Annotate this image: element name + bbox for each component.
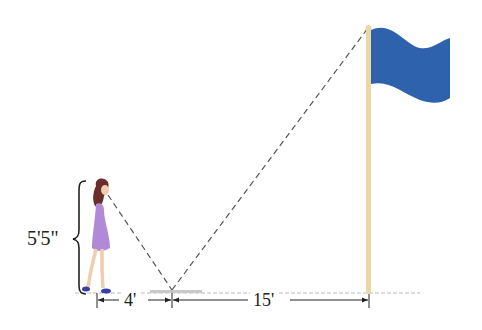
mirror — [150, 290, 202, 293]
person-height-label: 5'5" — [24, 228, 62, 248]
height-brace — [73, 181, 86, 294]
sight-line-eye-to-mirror — [108, 195, 172, 290]
similar-triangles-diagram: 5'5" 4' 15' — [0, 0, 482, 330]
distance-mirror-flagpole-label: 15' — [250, 291, 277, 309]
person — [82, 179, 111, 294]
sight-line-mirror-to-flag-top — [172, 28, 368, 290]
flagpole-finial — [366, 25, 372, 31]
flag — [371, 28, 450, 103]
flagpole — [366, 27, 371, 294]
distance-person-mirror-label: 4' — [121, 291, 139, 309]
